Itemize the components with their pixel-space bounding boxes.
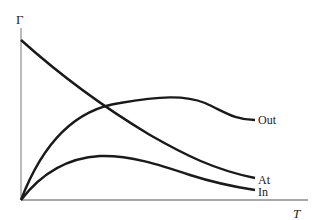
y-axis-label: Γ [16, 13, 24, 26]
series-out-curve [21, 97, 255, 200]
legend-out: Out [258, 114, 276, 126]
x-axis-label: T [293, 207, 300, 220]
chart-plot [0, 0, 329, 220]
series-in-curve [21, 156, 255, 200]
legend-in: In [258, 186, 268, 198]
